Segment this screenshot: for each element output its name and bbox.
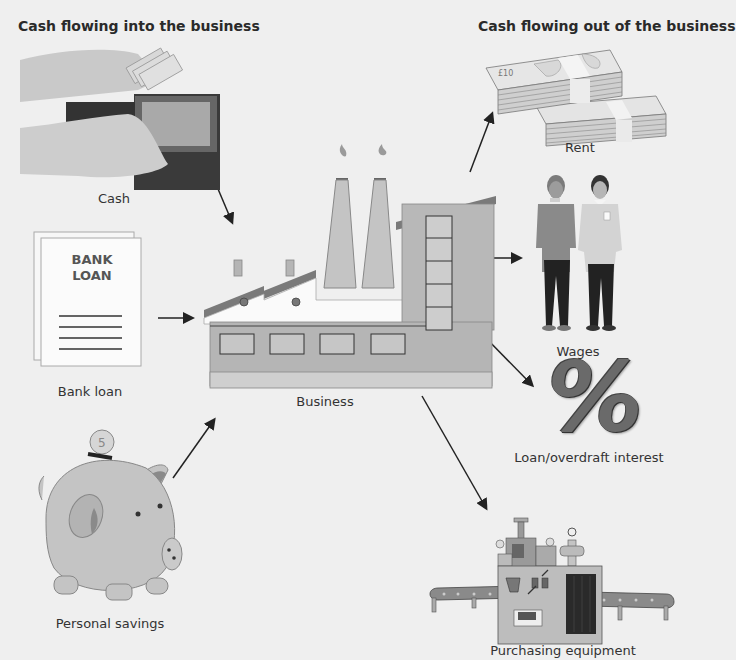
outflow-label-rent: Rent [550,140,610,155]
arrow-business-to-equipment [422,396,486,508]
inflow-label-cash: Cash [84,191,144,206]
svg-text:5: 5 [98,436,106,450]
outflow-label-purchasing-equipment: Purchasing equipment [488,643,638,658]
svg-text:£10: £10 [498,69,513,78]
workers-icon [534,172,634,332]
inflow-label-bank-loan: Bank loan [50,384,130,399]
inflow-label-personal-savings: Personal savings [50,616,170,631]
percent-icon: % [538,356,648,440]
outflow-label-interest: Loan/overdraft interest [504,450,674,465]
document-line-2: LOAN [62,268,122,284]
center-label-business: Business [290,394,360,409]
bank-loan-document-text: BANK LOAN [62,252,122,284]
piggy-bank-icon: 5 [36,428,196,598]
bank-loan-document-icon [32,230,142,370]
industrial-machine-icon [428,494,678,634]
factory-icon [196,140,496,390]
banknote-stacks-icon: £10 [486,44,666,134]
document-line-1: BANK [62,252,122,268]
